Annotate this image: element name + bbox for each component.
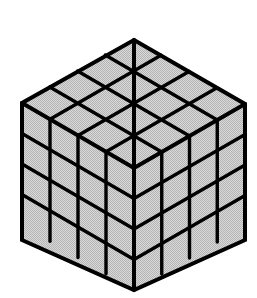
isometric-cube-figure (0, 0, 257, 298)
figure-canvas (0, 0, 257, 298)
